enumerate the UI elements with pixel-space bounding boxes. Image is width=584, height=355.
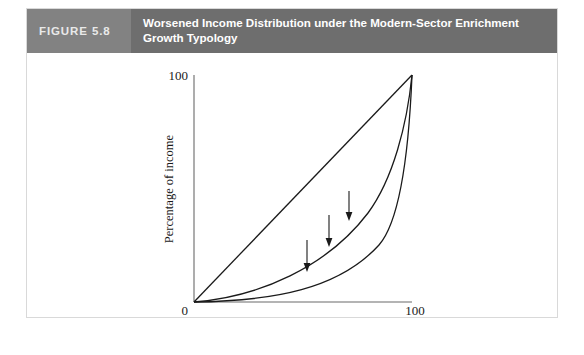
lorenz-curve-chart: 100 0 100 Percentage of income Percentag… [27,53,557,317]
figure-number-block: FIGURE 5.8 [27,9,131,53]
figure-number-label: FIGURE 5.8 [39,25,111,37]
x-tick-label-100: 100 [405,303,425,317]
series-group [194,75,412,302]
y-tick-label-100: 100 [169,68,189,83]
axis-title-group: Percentage of income Percentage of incom… [162,134,383,317]
figure-header: FIGURE 5.8 Worsened Income Distribution … [27,9,557,53]
chart-plot-area: 100 0 100 Percentage of income Percentag… [27,53,557,317]
series-line-of-equality [194,75,412,302]
figure-title: Worsened Income Distribution under the M… [131,9,557,45]
shift-arrow-1-icon [304,240,311,272]
y-tick-label-0: 0 [182,303,189,317]
tick-label-group: 100 0 100 [169,68,425,317]
y-axis-title: Percentage of income [162,134,176,243]
shift-arrow-3-icon [346,191,353,221]
figure-container: FIGURE 5.8 Worsened Income Distribution … [26,8,558,318]
annotation-group [304,191,353,272]
shift-arrow-2-icon [326,215,333,247]
